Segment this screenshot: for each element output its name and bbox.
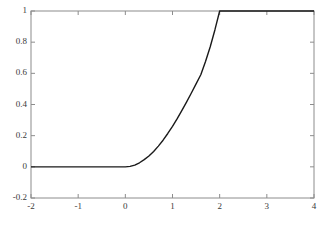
x-tick-label: -2 — [11, 202, 51, 211]
x-tick-label: 1 — [153, 202, 193, 211]
y-tick-label: 0.8 — [0, 37, 27, 46]
x-tick-label: -1 — [58, 202, 98, 211]
y-tick-label: -0.2 — [0, 193, 27, 202]
x-tick-label: 2 — [200, 202, 240, 211]
y-tick-label: 1 — [0, 6, 27, 15]
x-tick-label: 3 — [247, 202, 287, 211]
plot-area — [0, 0, 328, 230]
plot-background — [31, 11, 314, 198]
x-tick-label: 4 — [294, 202, 328, 211]
y-tick-label: 0 — [0, 162, 27, 171]
y-tick-label: 0.6 — [0, 68, 27, 77]
y-tick-label: 0.4 — [0, 100, 27, 109]
figure-canvas: -2-101234 -0.200.20.40.60.81 — [0, 0, 328, 230]
x-tick-label: 0 — [105, 202, 145, 211]
y-tick-label: 0.2 — [0, 131, 27, 140]
